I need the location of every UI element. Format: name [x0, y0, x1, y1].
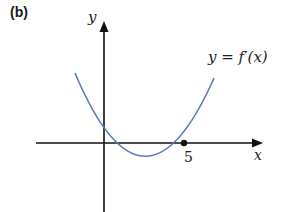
y-axis-arrow-icon — [100, 21, 109, 32]
x-axis-label: x — [254, 147, 262, 163]
y-axis-label: y — [87, 8, 97, 26]
graph: y x 5 y = f′(x) — [0, 0, 282, 212]
x-axis — [36, 139, 263, 148]
y-axis — [100, 21, 109, 212]
figure: (b) y x 5 y = f′(x) — [0, 0, 282, 212]
curve-label: y = f′(x) — [207, 48, 268, 66]
point-label: 5 — [184, 149, 193, 165]
root-point — [181, 140, 187, 146]
